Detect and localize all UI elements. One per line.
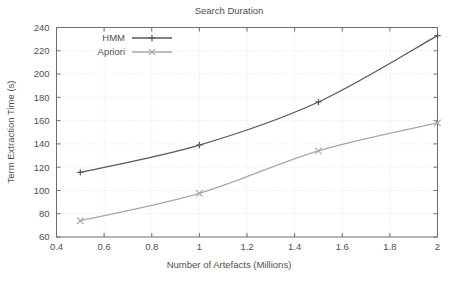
x-tick-label: 0.8 [145, 241, 158, 252]
y-tick-label: 80 [39, 208, 50, 219]
x-tick-label: 0.6 [98, 241, 111, 252]
legend-label: Apriori [98, 46, 125, 57]
x-tick-label: 2 [435, 241, 440, 252]
y-tick-label: 180 [34, 92, 50, 103]
y-tick-label: 240 [34, 22, 50, 33]
chart-container: Search Duration 608010012014016018020022… [0, 0, 458, 281]
chart-background [0, 0, 458, 281]
y-tick-label: 200 [34, 68, 50, 79]
y-axis-title: Term Extraction Time (s) [5, 81, 16, 184]
x-axis-title: Number of Artefacts (Millions) [167, 259, 292, 270]
y-tick-label: 60 [39, 231, 50, 242]
x-tick-label: 0.4 [50, 241, 63, 252]
x-tick-label: 1.8 [383, 241, 396, 252]
legend-label: HMM [102, 32, 125, 43]
x-tick-label: 1.2 [240, 241, 253, 252]
y-tick-label: 140 [34, 138, 50, 149]
y-tick-label: 100 [34, 185, 50, 196]
y-tick-label: 120 [34, 162, 50, 173]
x-tick-label: 1 [197, 241, 202, 252]
x-tick-label: 1.6 [336, 241, 349, 252]
search-duration-line-chart: Search Duration 608010012014016018020022… [0, 0, 458, 281]
x-tick-label: 1.4 [288, 241, 301, 252]
chart-title: Search Duration [195, 5, 264, 16]
y-tick-label: 220 [34, 45, 50, 56]
y-tick-label: 160 [34, 115, 50, 126]
